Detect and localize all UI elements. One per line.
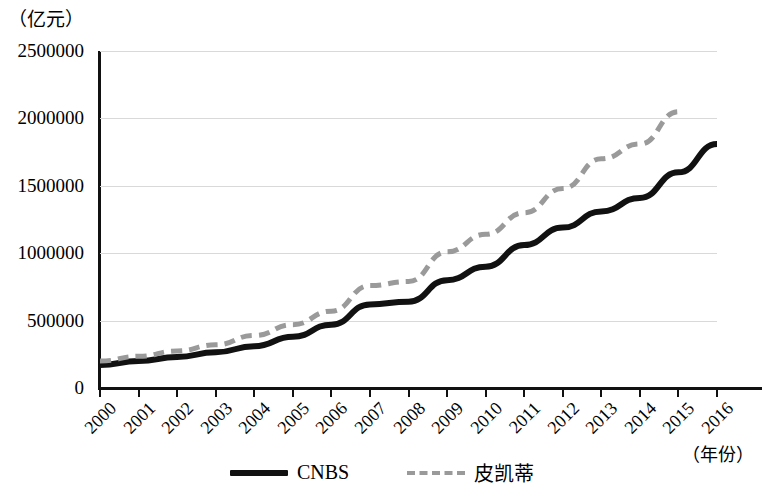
legend-swatch-solid-icon [230,470,288,476]
chart-figure: （亿元） 05000001000000150000020000002500000… [0,0,764,493]
x-axis-tick-label: 2016 [695,398,738,441]
x-axis-tick-label: 2011 [502,398,545,441]
series-line-piketty [100,112,678,361]
y-axis-tick-label: 1000000 [18,242,85,264]
y-axis-tick-label: 500000 [27,310,84,332]
y-axis-tick-label: 1500000 [18,175,85,197]
x-axis-tick-labels: 2000200120022003200420052006200720082009… [0,396,764,456]
y-axis-unit-label: （亿元） [8,4,84,31]
x-axis-tick-label: 2005 [271,398,314,441]
x-axis-tick-label: 2010 [463,398,506,441]
x-axis-tick-label: 2015 [656,398,699,441]
chart-legend: CNBS皮凯蒂 [0,458,764,487]
y-axis-tick-label: 2500000 [18,40,85,62]
x-axis-tick-label: 2009 [425,398,468,441]
x-axis-tick-label: 2004 [232,398,275,441]
x-axis-tick-label: 2003 [193,398,236,441]
series-line-cnbs [100,144,717,365]
plot-area [100,51,717,388]
x-axis-tick-label: 2006 [309,398,352,441]
x-axis-tick-label: 2007 [348,398,391,441]
x-axis-tick-label: 2002 [155,398,198,441]
legend-label: CNBS [297,461,349,484]
y-axis-tick-labels: 05000001000000150000020000002500000 [0,51,92,388]
legend-swatch-dashed-icon [407,471,465,475]
x-axis-tick-label: 2008 [386,398,429,441]
legend-label: 皮凯蒂 [474,458,534,487]
legend-item[interactable]: 皮凯蒂 [407,458,534,487]
x-axis-tick-label: 2013 [579,398,622,441]
x-axis-tick-label: 2000 [78,398,121,441]
x-axis-tick-label: 2012 [540,398,583,441]
series-layer [100,51,717,388]
legend-item[interactable]: CNBS [230,461,349,484]
y-axis-tick-label: 2000000 [18,107,85,129]
x-axis-tick-label: 2001 [116,398,159,441]
x-axis-tick-label: 2014 [618,398,661,441]
